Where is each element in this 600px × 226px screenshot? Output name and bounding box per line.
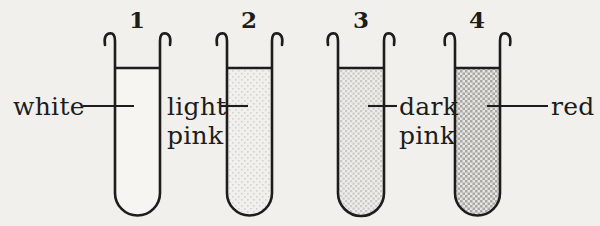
- label-light-pink-line-1: light: [167, 92, 227, 121]
- label-light-pink-line-2: pink: [167, 121, 227, 150]
- label-red: red: [551, 92, 595, 121]
- test-tubes-figure: 1 2 3 4 white light pink dark pink red: [0, 0, 600, 226]
- tube-1: [105, 33, 171, 215]
- tube-4-liquid: [456, 68, 498, 214]
- label-white-line: white: [13, 92, 85, 121]
- label-white: white: [13, 92, 85, 121]
- tube-3-liquid: [339, 68, 382, 215]
- label-dark-pink: dark pink: [399, 92, 458, 150]
- tube-3-number: 3: [341, 8, 381, 32]
- label-red-line: red: [551, 92, 595, 121]
- label-light-pink: light pink: [167, 92, 227, 150]
- label-dark-pink-line-1: dark: [399, 92, 458, 121]
- tube-2-number: 2: [229, 8, 269, 32]
- tube-1-liquid: [116, 68, 158, 214]
- tube-4-number: 4: [457, 8, 497, 32]
- label-dark-pink-line-2: pink: [399, 121, 458, 150]
- tubes-illustration: [0, 0, 600, 226]
- tube-3: [328, 33, 395, 216]
- tube-2-liquid: [228, 68, 270, 214]
- tube-1-number: 1: [117, 8, 157, 32]
